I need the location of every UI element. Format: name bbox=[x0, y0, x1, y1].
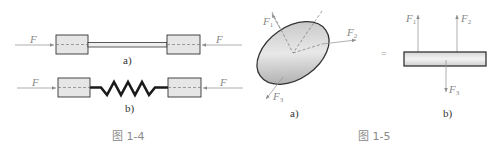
figure-1-4b-spring-assembly: F F b) bbox=[17, 76, 243, 115]
part-a-label: a) bbox=[123, 54, 132, 67]
f1-label: F1 bbox=[262, 15, 274, 29]
right-force-label: F bbox=[219, 76, 227, 88]
f3-label: F3 bbox=[448, 83, 460, 97]
figure-caption: 图 1-5 bbox=[358, 130, 390, 143]
f2-label: F2 bbox=[346, 26, 358, 40]
left-force-label: F bbox=[29, 33, 37, 45]
right-force-label: F bbox=[215, 33, 223, 45]
diagram-canvas: F F a) F F b) 图 1-4 bbox=[0, 0, 501, 152]
figure-1-4: F F a) F F b) 图 1-4 bbox=[15, 33, 243, 143]
part-b-label: b) bbox=[443, 107, 453, 120]
bar bbox=[404, 52, 486, 66]
part-b-label: b) bbox=[125, 102, 135, 115]
figure-1-5: F1 F2 F3 a) = F1 F2 F3 b) 图 1-5 bbox=[245, 9, 486, 143]
figure-1-5b-bar-body: F1 F2 F3 b) bbox=[404, 12, 486, 120]
part-a-label: a) bbox=[290, 107, 299, 120]
f3-label: F3 bbox=[272, 90, 284, 104]
left-force-label: F bbox=[31, 76, 39, 88]
f2-label: F2 bbox=[460, 12, 472, 26]
figure-caption: 图 1-4 bbox=[112, 130, 144, 143]
equals-sign: = bbox=[381, 48, 387, 59]
rod bbox=[88, 43, 167, 48]
spring bbox=[90, 82, 168, 95]
f1-arrow bbox=[272, 14, 282, 32]
f1-label: F1 bbox=[405, 12, 417, 26]
figure-1-4a-rod-assembly: F F a) bbox=[15, 33, 242, 67]
figure-1-5a-ellipse-body: F1 F2 F3 a) bbox=[245, 9, 357, 120]
